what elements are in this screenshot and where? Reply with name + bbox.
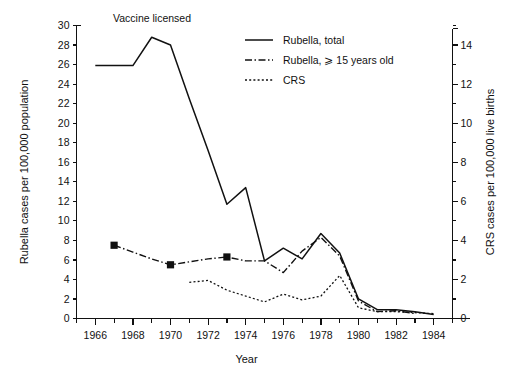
y-right-tick-label: 10 — [461, 117, 473, 129]
data-point-marker — [111, 242, 118, 249]
legend-label: Rubella, ⩾ 15 years old — [283, 54, 394, 66]
x-tick-label: 1974 — [234, 329, 258, 341]
y-left-tick-label: 26 — [58, 58, 70, 70]
chart-canvas: 0246810121416182022242628300246810121419… — [0, 0, 514, 387]
x-tick-label: 1978 — [309, 329, 333, 341]
data-point-marker — [223, 253, 230, 260]
x-tick-label: 1976 — [272, 329, 296, 341]
y-right-axis-title: CRS cases per 100,000 live births — [484, 88, 496, 255]
x-tick-label: 1972 — [196, 329, 220, 341]
y-left-tick-label: 30 — [58, 19, 70, 31]
x-tick-label: 1984 — [422, 329, 446, 341]
series-line-rubella-total — [95, 37, 433, 314]
y-right-tick-label: 6 — [461, 195, 467, 207]
y-left-tick-label: 12 — [58, 195, 70, 207]
y-right-tick-label: 4 — [461, 234, 467, 246]
y-left-tick-label: 4 — [64, 273, 70, 285]
y-right-tick-label: 14 — [461, 39, 473, 51]
legend-label: CRS — [283, 74, 305, 86]
y-left-tick-label: 20 — [58, 117, 70, 129]
rubella-crs-chart-figure: 0246810121416182022242628300246810121419… — [0, 0, 514, 387]
legend-group: Rubella, totalRubella, ⩾ 15 years oldCRS — [245, 34, 394, 86]
y-right-tick-label: 12 — [461, 78, 473, 90]
y-left-tick-label: 10 — [58, 214, 70, 226]
y-left-tick-label: 0 — [64, 312, 70, 324]
y-left-tick-label: 22 — [58, 97, 70, 109]
y-left-axis-title: Rubella cases per 100,000 population — [18, 80, 30, 265]
y-left-tick-label: 18 — [58, 136, 70, 148]
y-left-tick-label: 2 — [64, 293, 70, 305]
y-left-tick-label: 14 — [58, 175, 70, 187]
series-line-crs — [189, 276, 433, 314]
vaccine-licensed-annotation: Vaccine licensed — [113, 12, 191, 24]
y-right-tick-label: 2 — [461, 273, 467, 285]
y-right-tick-label: 0 — [461, 312, 467, 324]
x-axis-title: Year — [235, 353, 258, 365]
x-tick-label: 1982 — [384, 329, 408, 341]
legend-label: Rubella, total — [283, 34, 344, 46]
x-tick-label: 1970 — [159, 329, 183, 341]
y-left-tick-label: 8 — [64, 234, 70, 246]
labels-group: YearRubella cases per 100,000 population… — [18, 12, 496, 365]
x-tick-label: 1980 — [347, 329, 371, 341]
y-left-tick-label: 28 — [58, 39, 70, 51]
x-tick-label: 1966 — [84, 329, 108, 341]
y-left-tick-label: 24 — [58, 78, 70, 90]
data-point-marker — [167, 261, 174, 268]
x-tick-label: 1968 — [121, 329, 145, 341]
y-left-tick-label: 6 — [64, 254, 70, 266]
y-right-tick-label: 8 — [461, 156, 467, 168]
y-left-tick-label: 16 — [58, 156, 70, 168]
series-group — [95, 37, 433, 314]
series-line-rubella-15plus — [114, 237, 415, 313]
axes-group: 0246810121416182022242628300246810121419… — [58, 19, 473, 340]
